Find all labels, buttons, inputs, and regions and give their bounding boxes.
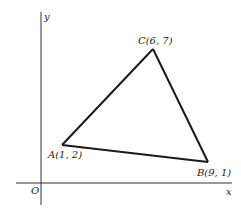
triangle [62, 49, 208, 162]
coordinate-diagram: y x O A(1, 2) B(9, 1) C(6, 7) [0, 0, 241, 216]
x-axis-label: x [226, 186, 232, 197]
edge-ac [62, 49, 153, 145]
edge-ba [62, 145, 208, 162]
edge-cb [153, 49, 208, 162]
vertex-label-b: B(9, 1) [196, 167, 231, 178]
vertex-label-a: A(1, 2) [47, 149, 82, 160]
y-axis-label: y [43, 11, 50, 22]
vertex-label-c: C(6, 7) [138, 35, 173, 46]
origin-label: O [31, 185, 39, 196]
